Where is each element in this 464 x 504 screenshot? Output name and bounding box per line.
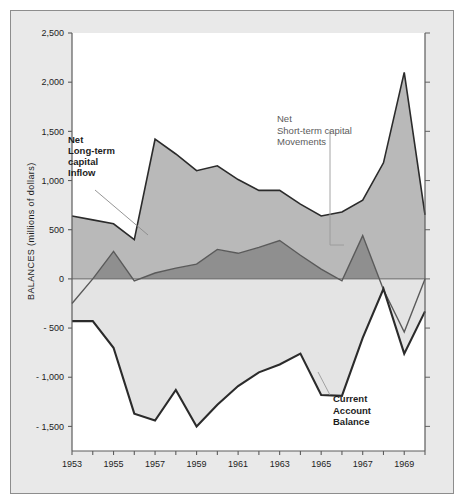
y-tick-label: 500 — [49, 225, 64, 235]
annotation-line: Long-term — [68, 145, 115, 156]
annotation-line: Movements — [277, 136, 326, 147]
x-tick-label: 1963 — [270, 459, 290, 469]
annotation-line: Current — [333, 393, 368, 404]
y-tick-label: 2,000 — [41, 77, 64, 87]
x-tick-label: 1957 — [145, 459, 165, 469]
y-tick-label: 1,000 — [41, 176, 64, 186]
y-axis-tick-labels: 2,5002,0001,5001,0005000- 500- 1,000- 1,… — [36, 28, 64, 431]
annotation-line: Net — [277, 113, 292, 124]
annotation-line: Balance — [333, 416, 369, 427]
y-tick-label: 1,500 — [41, 127, 64, 137]
annotation-line: Net — [68, 134, 84, 145]
y-axis-ticks-right — [425, 33, 430, 426]
plot-container: 2,5002,0001,5001,0005000- 500- 1,000- 1,… — [0, 0, 464, 504]
annotation-line: Short-term capital — [277, 125, 352, 136]
x-tick-label: 1953 — [62, 459, 82, 469]
x-tick-label: 1965 — [311, 459, 331, 469]
annotation-line: capital — [68, 156, 98, 167]
annotation-current-account-balance: CurrentAccountBalance — [333, 393, 372, 427]
y-tick-label: - 500 — [43, 323, 64, 333]
y-tick-label: - 1,000 — [36, 372, 64, 382]
x-tick-label: 1967 — [353, 459, 373, 469]
chart-svg: 2,5002,0001,5001,0005000- 500- 1,000- 1,… — [0, 0, 464, 504]
y-tick-label: 2,500 — [41, 28, 64, 38]
x-tick-label: 1961 — [228, 459, 248, 469]
y-axis-title: BALANCES (millions of dollars) — [26, 162, 36, 300]
x-tick-label: 1969 — [394, 459, 414, 469]
x-axis-tick-labels: 195319551957195919611963196519671969 — [62, 459, 414, 469]
chart-page: 2,5002,0001,5001,0005000- 500- 1,000- 1,… — [0, 0, 464, 504]
annotation-line: Inflow — [68, 167, 96, 178]
annotation-line: Account — [333, 405, 372, 416]
x-tick-label: 1955 — [104, 459, 124, 469]
y-tick-label: - 1,500 — [36, 422, 64, 432]
y-tick-label: 0 — [59, 274, 64, 284]
x-tick-label: 1959 — [187, 459, 207, 469]
